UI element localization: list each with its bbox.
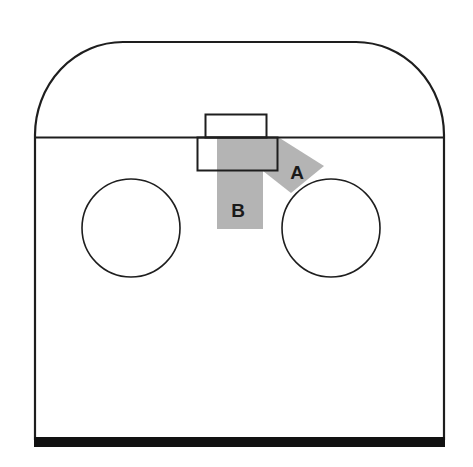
- room-outline: [35, 42, 444, 440]
- upper-small-rectangle: [206, 115, 267, 138]
- left-circle: [82, 179, 180, 277]
- diagram-canvas: A B: [0, 0, 473, 467]
- region-label-b: B: [231, 200, 245, 221]
- thick-base-bar: [34, 437, 445, 447]
- right-circle: [282, 179, 380, 277]
- region-label-a: A: [290, 162, 304, 183]
